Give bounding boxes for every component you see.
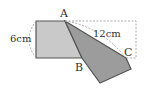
label-point-a: A (59, 7, 69, 20)
folded-rectangle-diagram: A B C 6cm 12cm (0, 0, 150, 90)
label-point-b: B (75, 61, 83, 74)
label-point-c: C (124, 46, 132, 59)
label-side-length: 6cm (10, 33, 32, 44)
label-diagonal-length: 12cm (93, 28, 121, 39)
